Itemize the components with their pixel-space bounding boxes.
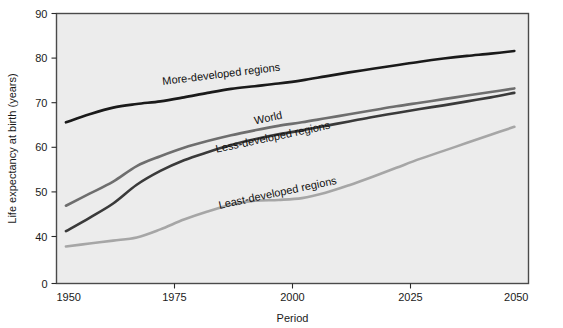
x-tick-label: 2025 xyxy=(398,291,422,303)
plot-background xyxy=(57,14,529,284)
x-tick-label: 2000 xyxy=(280,291,304,303)
y-tick-label: 70 xyxy=(35,97,47,109)
y-axis: 0405060708090 xyxy=(35,8,56,290)
x-axis-title: Period xyxy=(277,312,309,324)
chart-figure: 0405060708090 19501975200020252050 More-… xyxy=(0,0,563,328)
x-tick-label: 1950 xyxy=(57,291,81,303)
y-tick-label: 0 xyxy=(41,278,47,290)
y-tick-label: 40 xyxy=(35,231,47,243)
line-chart-svg: 0405060708090 19501975200020252050 More-… xyxy=(0,0,563,328)
y-axis-title: Life expectancy at birth (years) xyxy=(6,73,18,223)
x-tick-label: 2050 xyxy=(504,291,528,303)
y-tick-label: 90 xyxy=(35,8,47,20)
x-tick-label: 1975 xyxy=(162,291,186,303)
y-tick-label: 80 xyxy=(35,52,47,64)
y-tick-label: 60 xyxy=(35,141,47,153)
y-tick-label: 50 xyxy=(35,186,47,198)
x-axis: 19501975200020252050 xyxy=(57,284,529,303)
